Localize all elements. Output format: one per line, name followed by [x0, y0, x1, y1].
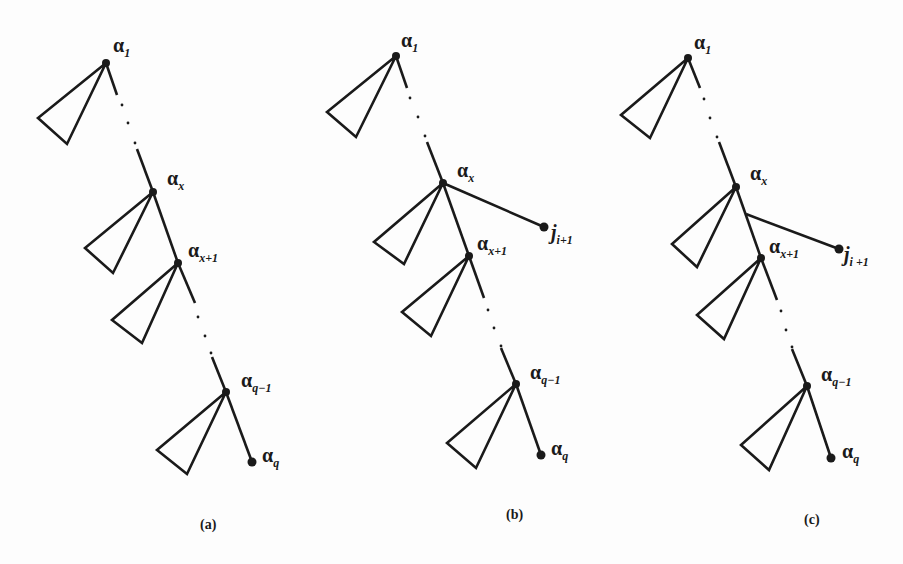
subtree-triangle	[157, 392, 226, 474]
subtree-triangle	[38, 63, 106, 144]
subtree-triangle	[85, 192, 153, 273]
panel-c-tree	[621, 58, 839, 470]
subtree-triangle	[402, 256, 469, 336]
subtree-triangle	[697, 258, 761, 339]
subtree-triangle	[374, 183, 443, 264]
label-alpha-1: α1	[113, 35, 130, 59]
label-j-i-plus-1: ji+1	[551, 222, 573, 246]
caption-b: (b)	[506, 507, 523, 523]
subtree-triangle	[447, 384, 516, 468]
label-alpha-x-plus-1: αx+1	[188, 240, 218, 264]
label-alpha-q-minus-1: αq−1	[821, 364, 851, 388]
tree-path-figure: α1 αx αx+1 αq−1 αq (a) α1 αx αx+1 ji+1 α…	[0, 0, 903, 564]
subtree-triangle	[112, 263, 178, 343]
label-alpha-x: αx	[167, 168, 184, 192]
label-alpha-1: α1	[694, 32, 711, 56]
caption-c: (c)	[804, 512, 820, 528]
label-alpha-q-minus-1: αq−1	[241, 370, 271, 394]
label-alpha-q: αq	[262, 445, 279, 469]
panel-a-tree	[38, 63, 252, 474]
label-alpha-q: αq	[551, 438, 568, 462]
panel-b-tree	[327, 56, 544, 468]
subtree-triangle	[672, 187, 736, 267]
label-alpha-x-plus-1: αx+1	[477, 233, 507, 257]
label-alpha-x: αx	[750, 163, 767, 187]
caption-a: (a)	[200, 517, 216, 533]
subtree-triangle	[741, 386, 807, 470]
label-alpha-q-minus-1: αq−1	[530, 362, 560, 386]
label-alpha-x: αx	[457, 160, 474, 184]
subtree-triangle	[327, 56, 396, 137]
subtree-triangle	[621, 58, 688, 138]
tree-diagrams	[0, 0, 903, 564]
label-j-i-plus-1: ji +1	[844, 244, 869, 268]
label-alpha-x-plus-1: αx+1	[769, 236, 799, 260]
label-alpha-q: αq	[842, 441, 859, 465]
label-alpha-1: α1	[401, 30, 418, 54]
